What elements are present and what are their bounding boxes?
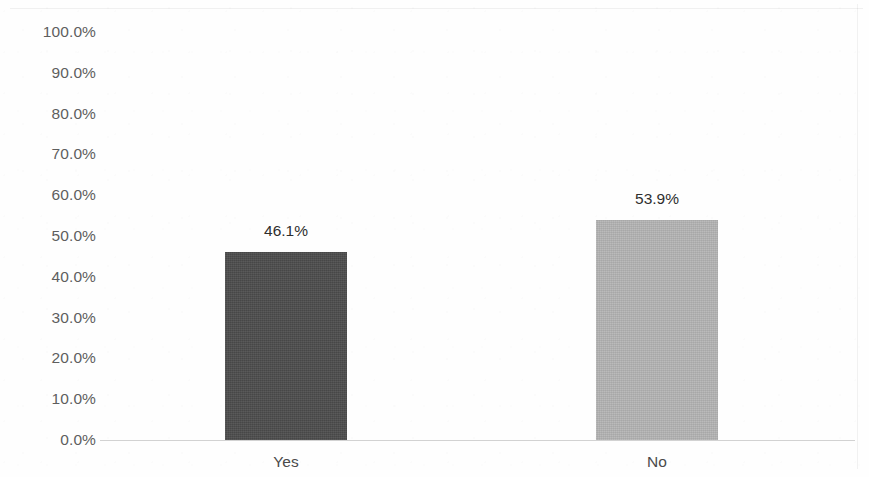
bar-rect (225, 252, 347, 440)
bar-value-label: 46.1% (185, 222, 387, 240)
plot-area: 100.0%90.0%80.0%70.0%60.0%50.0%40.0%30.0… (0, 0, 869, 477)
bar-chart-figure: 100.0%90.0%80.0%70.0%60.0%50.0%40.0%30.0… (0, 0, 869, 477)
bar[interactable]: 46.1%Yes (225, 252, 347, 440)
x-axis-category-label: Yes (165, 453, 407, 471)
bar-rect (596, 220, 718, 440)
bar[interactable]: 53.9%No (596, 220, 718, 440)
x-axis-category-label: No (536, 453, 778, 471)
bar-value-label: 53.9% (556, 190, 758, 208)
bars-layer: 46.1%Yes53.9%No (0, 0, 869, 477)
